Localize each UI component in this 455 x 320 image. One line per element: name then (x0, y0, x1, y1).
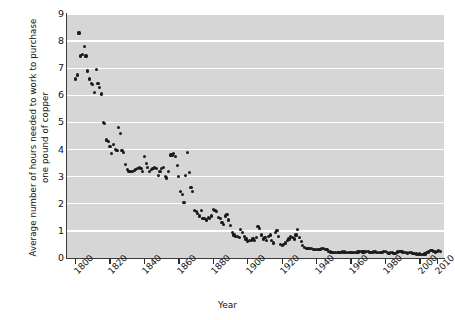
x-axis-label: Year (0, 300, 455, 310)
y-tick-5: 5 (46, 116, 64, 127)
data-point (74, 77, 77, 80)
data-point (181, 193, 184, 196)
data-point (103, 122, 106, 125)
y-tick-8: 8 (46, 35, 64, 46)
y-tick-1: 1 (46, 225, 64, 236)
gridline (67, 68, 444, 69)
data-point (298, 236, 301, 239)
data-point (176, 164, 179, 167)
data-point (225, 213, 228, 216)
data-point (275, 229, 278, 232)
data-point (141, 170, 144, 173)
data-point (177, 175, 180, 178)
data-point (162, 166, 165, 169)
data-point (241, 231, 244, 234)
data-point (100, 92, 103, 95)
data-point (95, 68, 98, 71)
data-point (158, 170, 161, 173)
gridline (67, 203, 444, 204)
data-point (300, 240, 303, 243)
data-point (188, 171, 191, 174)
data-point (222, 223, 225, 226)
data-point (110, 152, 113, 155)
data-point (83, 45, 86, 48)
data-point (265, 239, 268, 242)
data-point (294, 233, 297, 236)
data-point (191, 190, 194, 193)
data-point (77, 31, 80, 34)
y-tick-4: 4 (46, 144, 64, 155)
gridline (67, 95, 444, 96)
y-tick-7: 7 (46, 62, 64, 73)
copper-work-hours-chart: Average number of hours needed to work t… (0, 0, 455, 320)
data-point (146, 166, 149, 169)
data-point (112, 143, 115, 146)
data-point (174, 155, 177, 158)
data-point (96, 82, 99, 85)
data-point (269, 233, 272, 236)
data-point (124, 163, 127, 166)
data-point (215, 210, 218, 213)
data-point (122, 151, 125, 154)
data-point (272, 241, 275, 244)
data-point (210, 214, 213, 217)
data-point (293, 237, 296, 240)
data-point (227, 218, 230, 221)
gridline (67, 230, 444, 231)
y-tick-6: 6 (46, 89, 64, 100)
data-point (119, 132, 122, 135)
y-tick-2: 2 (46, 198, 64, 209)
data-point (277, 235, 280, 238)
data-point (253, 239, 256, 242)
data-point (88, 77, 91, 80)
data-point (200, 209, 203, 212)
gridline (67, 122, 444, 123)
y-tick-3: 3 (46, 171, 64, 182)
data-point (167, 170, 170, 173)
data-point (186, 151, 189, 154)
data-point (182, 201, 185, 204)
data-point (107, 140, 110, 143)
data-point (145, 162, 148, 165)
y-axis-line (66, 13, 68, 259)
data-point (165, 176, 168, 179)
data-point (86, 69, 89, 72)
data-point (255, 236, 258, 239)
data-point (84, 54, 87, 57)
y-tick-9: 9 (46, 8, 64, 19)
y-axis-tick-labels: 0123456789 (44, 0, 64, 320)
gridline (67, 176, 444, 177)
data-point (189, 186, 192, 189)
data-point (76, 73, 79, 76)
plot-area (67, 14, 444, 258)
data-point (98, 86, 101, 89)
data-point (143, 155, 146, 158)
data-point (157, 174, 160, 177)
gridline (67, 40, 444, 41)
gridline (67, 13, 444, 14)
data-point (439, 250, 442, 253)
data-point (284, 241, 287, 244)
y-tick-0: 0 (46, 252, 64, 263)
data-point (229, 224, 232, 227)
data-point (115, 149, 118, 152)
data-point (91, 83, 94, 86)
data-point (117, 126, 120, 129)
data-point (238, 236, 241, 239)
data-point (219, 217, 222, 220)
